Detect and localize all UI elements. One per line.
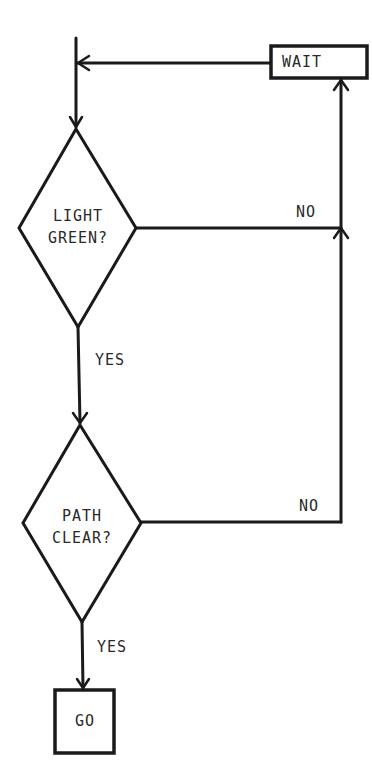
light-yes-label: YES <box>95 353 125 368</box>
wait-label: WAIT <box>282 55 322 70</box>
light-green-label-line1: LIGHT <box>53 209 103 224</box>
path-clear-label-line1: PATH <box>62 509 102 524</box>
light-no-label: NO <box>296 205 316 220</box>
path-yes-label: YES <box>97 640 127 655</box>
light-green-label-line2: GREEN? <box>48 231 108 246</box>
light-yes-connector <box>78 327 80 423</box>
path-yes-connector <box>82 622 83 688</box>
light-green-decision-shape <box>19 129 136 327</box>
go-label: GO <box>75 714 95 729</box>
flowchart-canvas <box>0 0 372 784</box>
path-no-label: NO <box>299 499 319 514</box>
path-clear-label-line2: CLEAR? <box>52 531 112 546</box>
